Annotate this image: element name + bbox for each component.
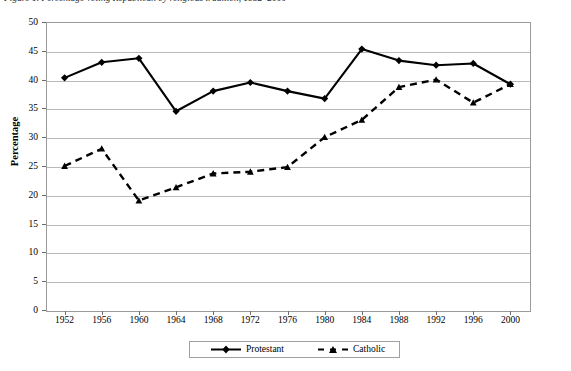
y-tick-label: 15 [29, 219, 39, 229]
series-line [65, 80, 511, 201]
legend-marker-catholic-icon [317, 344, 349, 355]
data-point-marker [247, 79, 254, 86]
x-tick-label: 1960 [119, 315, 159, 326]
x-tick-mark [473, 311, 474, 315]
data-point-marker [433, 62, 440, 69]
data-point-marker [98, 145, 105, 151]
x-tick-mark [436, 311, 437, 315]
series-catholic [61, 76, 514, 203]
x-tick-label: 1968 [193, 315, 233, 326]
data-point-marker [395, 57, 402, 64]
y-tick-label: 30 [29, 132, 39, 142]
x-tick-mark [139, 311, 140, 315]
x-tick-label: 1988 [379, 315, 419, 326]
x-tick-mark [510, 311, 511, 315]
x-axis: 1952195619601964196819721976198019841988… [0, 315, 571, 331]
x-tick-label: 1976 [268, 315, 308, 326]
data-point-marker [98, 59, 105, 66]
x-tick-label: 1964 [156, 315, 196, 326]
x-tick-label: 1980 [305, 315, 345, 326]
legend-entry-protestant: Protestant [210, 342, 284, 357]
x-tick-mark [325, 311, 326, 315]
x-tick-label: 1996 [453, 315, 493, 326]
y-tick-label: 25 [29, 161, 39, 171]
x-tick-mark [102, 311, 103, 315]
x-tick-label: 1992 [416, 315, 456, 326]
x-tick-mark [176, 311, 177, 315]
x-tick-label: 2000 [490, 315, 530, 326]
x-tick-mark [288, 311, 289, 315]
legend-entry-catholic: Catholic [317, 342, 385, 357]
y-tick-label: 45 [29, 46, 39, 56]
x-tick-label: 1984 [342, 315, 382, 326]
legend-marker-protestant-icon [210, 344, 242, 355]
legend-label-protestant: Protestant [246, 344, 284, 355]
y-tick-label: 40 [29, 75, 39, 85]
y-tick-label: 5 [33, 276, 38, 286]
y-axis-title: Percentage [9, 102, 20, 182]
x-tick-mark [250, 311, 251, 315]
y-tick-label: 10 [29, 247, 39, 257]
data-point-marker [321, 134, 328, 140]
y-tick-label: 50 [29, 17, 39, 27]
x-tick-label: 1956 [82, 315, 122, 326]
y-tick-label: 0 [33, 305, 38, 315]
x-tick-label: 1952 [45, 315, 85, 326]
figure-caption: Figure 1. Percentage voting Republican b… [4, 0, 564, 4]
data-point-marker [284, 88, 291, 95]
series-protestant [61, 45, 514, 114]
y-axis: 05101520253035404550 [0, 0, 46, 320]
y-tick-label: 20 [29, 190, 39, 200]
x-tick-mark [213, 311, 214, 315]
data-point-marker [61, 74, 68, 81]
legend-label-catholic: Catholic [353, 344, 385, 355]
y-tick-label: 35 [29, 103, 39, 113]
chart-legend: Protestant Catholic [189, 341, 400, 358]
chart-figure: Figure 1. Percentage voting Republican b… [0, 0, 571, 371]
x-tick-mark [65, 311, 66, 315]
x-tick-mark [362, 311, 363, 315]
series-line [65, 49, 511, 111]
series-layer [46, 22, 529, 310]
x-tick-label: 1972 [230, 315, 270, 326]
x-tick-mark [399, 311, 400, 315]
